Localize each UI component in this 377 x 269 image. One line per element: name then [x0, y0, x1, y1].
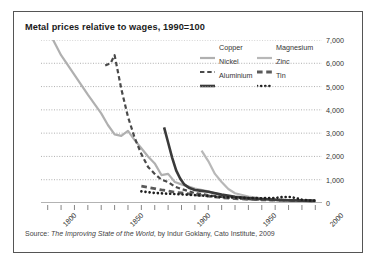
x-axis-tick-label: 1800 — [60, 211, 78, 229]
y-axis: 01,0002,0003,0004,0005,0006,0007,000 — [326, 40, 366, 203]
y-axis-tick-label: 7,000 — [326, 36, 344, 45]
series-line-copper — [48, 40, 316, 201]
y-axis-tick-label: 1,000 — [326, 175, 344, 184]
y-axis-tick-label: 6,000 — [326, 59, 344, 68]
series-line-nickel — [105, 55, 315, 201]
x-axis-ticks — [41, 205, 322, 211]
page-title: Metal prices relative to wages, 1990=100 — [25, 22, 205, 32]
x-axis-tick-label: 2000 — [328, 211, 346, 229]
source-prefix: Source: — [25, 230, 51, 237]
x-axis-tick-label: 1850 — [127, 211, 145, 229]
source-suffix: , by Indur Goklany, Cato Institute, 2009 — [154, 230, 275, 237]
y-axis-tick-label: 3,000 — [326, 129, 344, 138]
figure-panel: Metal prices relative to wages, 1990=100… — [13, 11, 363, 253]
y-axis-tick-label: 5,000 — [326, 82, 344, 91]
x-axis-tick-label: 1900 — [194, 211, 212, 229]
y-axis-tick-label: 2,000 — [326, 152, 344, 161]
x-axis-tick-label: 1950 — [261, 211, 279, 229]
chart-canvas — [41, 40, 322, 203]
y-axis-tick-label: 0 — [326, 199, 330, 208]
source-title: The Improving State of the World — [51, 230, 154, 237]
y-axis-tick-label: 4,000 — [326, 105, 344, 114]
plot-area — [41, 40, 322, 203]
source-note: Source: The Improving State of the World… — [25, 230, 275, 237]
